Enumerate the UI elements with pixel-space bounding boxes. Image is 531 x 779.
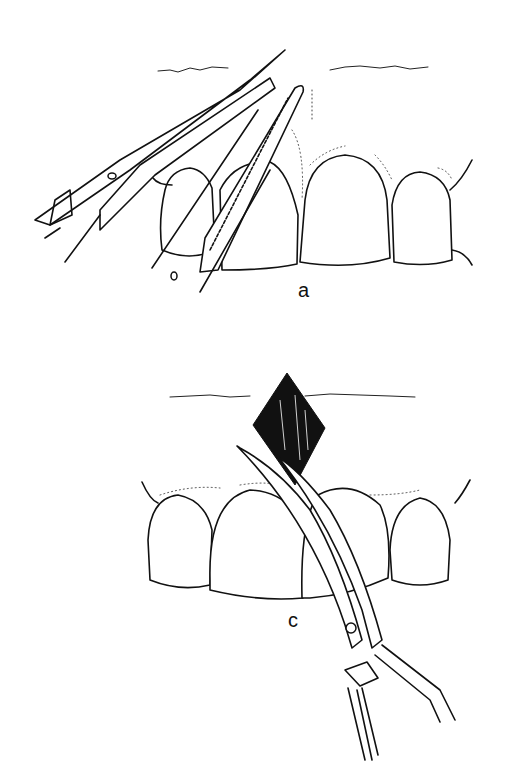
tooth-central-right xyxy=(300,155,390,265)
tooth-lateral-right xyxy=(390,498,450,585)
forceps-ring-icon xyxy=(171,272,177,280)
scissors-handle-right xyxy=(375,645,455,722)
gum-edge-right xyxy=(450,160,472,265)
illustration-panel-c xyxy=(0,330,531,779)
tooth-lateral-right xyxy=(392,172,452,265)
gingiva-stipple xyxy=(438,168,452,180)
panel-label-a: a xyxy=(298,280,309,300)
scissors-shank xyxy=(345,662,378,686)
panel-c: c xyxy=(0,330,531,779)
mucosa-line-left xyxy=(158,67,228,72)
illustration-panel-a xyxy=(0,0,531,320)
tooth-lateral-left xyxy=(148,495,212,588)
mucosa-line-right xyxy=(330,66,428,70)
scissors-pivot-icon xyxy=(346,623,356,633)
scissors-handle-left xyxy=(348,688,378,760)
panel-a: a xyxy=(0,0,531,320)
panel-label-c: c xyxy=(288,610,298,630)
